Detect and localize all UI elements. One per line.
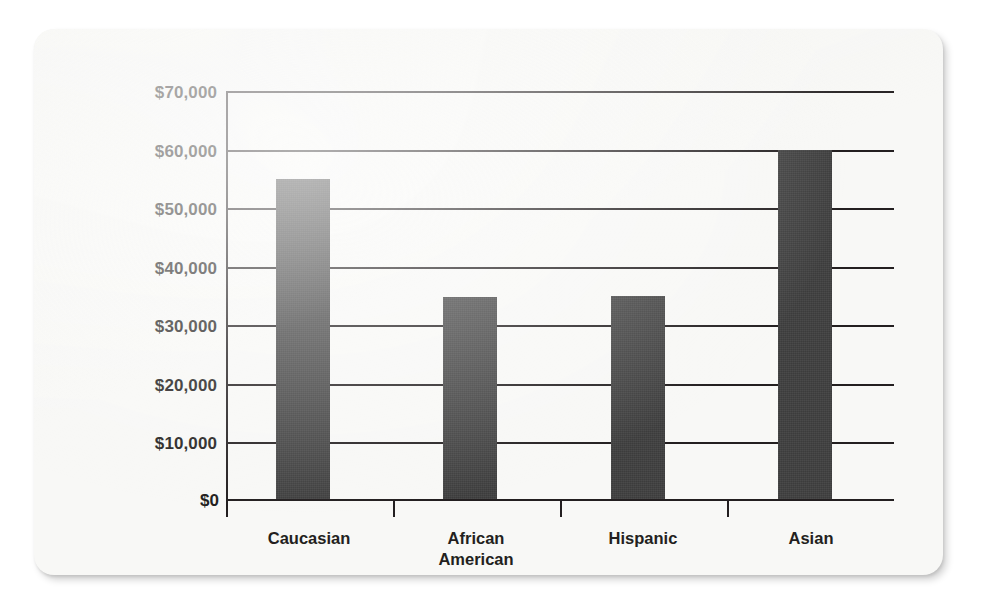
xcat-label-african-american-line2: American [438, 549, 513, 570]
ytick-label-10000: $10,000 [155, 434, 217, 454]
xcat-label-hispanic: Hispanic [609, 528, 678, 549]
ytick-label-60000: $60,000 [155, 142, 217, 162]
x-axis-tick-1 [393, 501, 395, 517]
ytick-label-30000: $30,000 [155, 317, 217, 337]
xcat-label-african-american-line1: African [448, 529, 505, 547]
x-axis-tick-2 [560, 501, 562, 517]
bar-african-american [443, 297, 497, 501]
bar-asian [778, 150, 832, 501]
ytick-label-0: $0 [200, 491, 219, 511]
bar-hispanic [611, 296, 665, 501]
xcat-label-african-american: African American [438, 528, 513, 570]
bar-caucasian [276, 179, 330, 501]
y-axis-line: $0 [226, 91, 228, 501]
xcat-label-caucasian: Caucasian [268, 528, 351, 549]
plot-area: $70,000 $60,000 $50,000 $40,000 $30,000 … [226, 91, 894, 501]
x-axis-tick-3 [727, 501, 729, 517]
screenshot-root: $70,000 $60,000 $50,000 $40,000 $30,000 … [0, 0, 981, 604]
ytick-label-70000: $70,000 [155, 83, 217, 103]
xcat-label-asian-line1: Asian [789, 529, 834, 547]
xcat-label-caucasian-line1: Caucasian [268, 529, 351, 547]
gridline-70000: $70,000 [226, 91, 894, 93]
xcat-label-asian: Asian [789, 528, 834, 549]
ytick-label-20000: $20,000 [155, 376, 217, 396]
ytick-label-50000: $50,000 [155, 200, 217, 220]
ytick-label-40000: $40,000 [155, 259, 217, 279]
xcat-label-hispanic-line1: Hispanic [609, 529, 678, 547]
x-axis-tick-0 [226, 501, 228, 517]
chart-card: $70,000 $60,000 $50,000 $40,000 $30,000 … [34, 29, 943, 575]
